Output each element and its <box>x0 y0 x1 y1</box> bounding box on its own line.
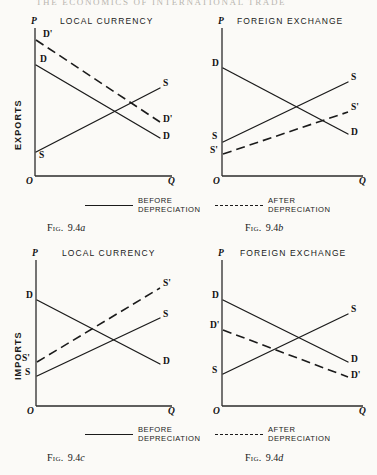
caption-fig-9-4c: Fig.9.4c <box>47 452 85 463</box>
curve-label-dprime-left-9-4d: D' <box>210 320 220 330</box>
curve-label-d-left-9-4c: D <box>26 290 33 300</box>
legend-after-text-bottom: AFTER DEPRECIATION <box>268 425 330 443</box>
curve-label-d-left-9-4b: D <box>212 58 219 68</box>
curve-label-s-left-9-4c: S <box>25 367 30 377</box>
caption-fig-9-4d: Fig.9.4d <box>245 452 283 463</box>
chart-svg-9-4c <box>0 240 190 420</box>
curve-label-sprime-left-9-4c: S' <box>22 353 30 363</box>
legend-after-text-top: AFTER DEPRECIATION <box>268 196 330 214</box>
legend-solid-line-icon <box>85 205 133 206</box>
p-axis-letter-9-4d: P <box>218 248 224 258</box>
curve-label-s-right-9-4d: S <box>351 304 356 314</box>
legend-before-text-bottom: BEFORE DEPRECIATION <box>138 425 200 443</box>
curve-label-d-left-9-4a: D <box>40 54 47 64</box>
chart-svg-9-4d <box>190 240 377 420</box>
curve-label-s-left-9-4d: S <box>212 365 217 375</box>
curve-label-d-left-9-4d: D <box>212 290 219 300</box>
q-axis-letter-9-4c: Q <box>168 406 175 416</box>
p-axis-letter-9-4a: P <box>31 16 37 26</box>
curve-label-dprime-right-9-4a: D' <box>163 114 173 124</box>
curve-label-d-right-9-4d: D <box>351 354 358 364</box>
legend-dashed-line-icon <box>215 434 263 435</box>
chart-panel-9-4a: LOCAL CURRENCY EXPORTS P O Q D D' S S D'… <box>0 10 190 190</box>
o-origin-letter-9-4c: O <box>27 406 34 416</box>
q-axis-letter-9-4d: Q <box>359 406 366 416</box>
caption-fig-9-4a: Fig.9.4a <box>47 222 85 233</box>
legend-after-top: AFTER DEPRECIATION <box>215 196 330 214</box>
curve-label-sprime-left-9-4b: S' <box>210 145 218 155</box>
chart-panel-9-4b: FOREIGN EXCHANGE P O Q D S S' S S' D <box>190 10 377 190</box>
curve-label-sprime-right-9-4c: S' <box>163 278 171 288</box>
curve-label-d-right-9-4c: D <box>163 356 170 366</box>
o-origin-letter-9-4b: O <box>213 176 220 186</box>
legend-solid-line-icon <box>85 434 133 435</box>
figure-page: THE ECONOMICS OF INTERNATIONAL TRADE LOC… <box>0 0 377 475</box>
legend-dashed-line-icon <box>215 205 263 206</box>
o-origin-letter-9-4a: O <box>26 176 33 186</box>
curve-label-dprime-right-9-4d: D' <box>351 370 361 380</box>
curve-label-s-left-9-4a: S <box>39 150 44 160</box>
running-head: THE ECONOMICS OF INTERNATIONAL TRADE <box>36 0 346 5</box>
p-axis-letter-9-4b: P <box>218 16 224 26</box>
curve-label-s-right-9-4b: S <box>351 72 356 82</box>
curve-label-dprime-left-9-4a: D' <box>43 29 53 39</box>
chart-panel-9-4c: LOCAL CURRENCY IMPORTS P O Q D S' S S' S… <box>0 240 190 420</box>
o-origin-letter-9-4d: O <box>213 406 220 416</box>
curve-label-s-left-9-4b: S <box>212 131 217 141</box>
legend-after-bottom: AFTER DEPRECIATION <box>215 425 330 443</box>
chart-svg-9-4a <box>0 10 190 190</box>
q-axis-letter-9-4b: Q <box>359 176 366 186</box>
legend-before-top: BEFORE DEPRECIATION <box>85 196 200 214</box>
chart-svg-9-4b <box>190 10 377 190</box>
p-axis-letter-9-4c: P <box>32 248 38 258</box>
legend-before-bottom: BEFORE DEPRECIATION <box>85 425 200 443</box>
curve-label-s-right-9-4a: S <box>163 78 168 88</box>
curve-label-sprime-right-9-4b: S' <box>351 102 359 112</box>
caption-fig-9-4b: Fig.9.4b <box>245 222 283 233</box>
chart-panel-9-4d: FOREIGN EXCHANGE P O Q D D' S S D D' <box>190 240 377 420</box>
legend-before-text-top: BEFORE DEPRECIATION <box>138 196 200 214</box>
curve-label-s-right-9-4c: S <box>163 309 168 319</box>
q-axis-letter-9-4a: Q <box>168 176 175 186</box>
curve-label-d-right-9-4b: D <box>351 127 358 137</box>
curve-label-d-right-9-4a: D <box>163 131 170 141</box>
